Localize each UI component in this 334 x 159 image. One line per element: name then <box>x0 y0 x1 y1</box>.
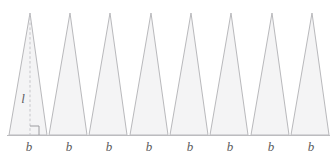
triangle-8 <box>291 13 329 135</box>
base-label-8: b <box>308 140 315 153</box>
triangle-6 <box>210 13 248 135</box>
base-label-5: b <box>187 140 194 153</box>
base-label-6: b <box>227 140 234 153</box>
geometry-figure: lbbbbbbbb <box>0 0 334 159</box>
triangle-2 <box>49 13 87 135</box>
base-label-1: b <box>26 140 33 153</box>
base-label-3: b <box>106 140 113 153</box>
base-label-7: b <box>268 140 275 153</box>
triangle-7 <box>251 13 289 135</box>
base-label-4: b <box>146 140 153 153</box>
altitude-label: l <box>21 92 25 105</box>
triangle-5 <box>170 13 208 135</box>
figure-canvas <box>0 0 334 159</box>
triangles-group <box>9 13 329 135</box>
triangle-1 <box>9 13 47 135</box>
base-label-2: b <box>66 140 73 153</box>
triangle-3 <box>89 13 127 135</box>
triangle-4 <box>130 13 168 135</box>
